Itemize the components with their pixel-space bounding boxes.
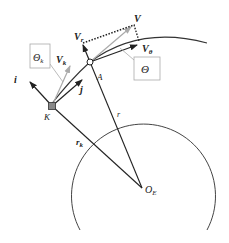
label-rk: rk [76, 137, 84, 149]
label-v: V [134, 13, 142, 24]
theta-leader [120, 48, 134, 60]
label-j: j [78, 84, 83, 95]
label-k-point: K [43, 112, 51, 122]
label-a-point: A [96, 72, 103, 82]
label-vk: Vk [56, 54, 67, 67]
theta-k-leader [50, 64, 63, 82]
label-theta: Θ [141, 63, 149, 75]
point-a-marker [87, 59, 93, 65]
earth-circle [72, 124, 216, 230]
label-vtheta: Vθ [142, 43, 153, 56]
vk-vector [52, 66, 70, 106]
label-oe: OE [145, 184, 157, 197]
orbit-diagram: i j K A V Vr Vθ Vk Θ Θk r rk OE [0, 0, 229, 243]
label-vr: Vr [74, 31, 84, 44]
j-vector [52, 80, 82, 106]
v-vector [90, 27, 131, 62]
radius-rk-line [52, 106, 142, 188]
label-i: i [14, 74, 17, 85]
point-k-marker [49, 103, 56, 110]
label-r: r [117, 110, 121, 119]
